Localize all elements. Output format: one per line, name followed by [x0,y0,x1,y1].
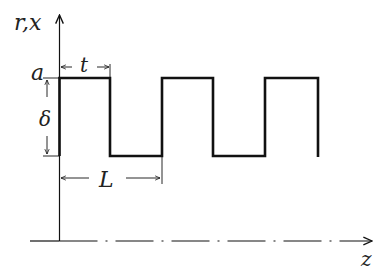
square-wave [60,78,319,157]
dimension-extension-lines [43,64,162,184]
t-dimension: t [61,53,109,77]
l-dimension: L [61,167,160,192]
t-label: t [80,53,89,77]
y-axis-label: r,x [14,10,42,35]
delta-label: δ [39,107,51,131]
z-axis-label: z [360,247,372,271]
l-label: L [98,167,114,192]
square-wave-diagram: t δ L r,x a z [0,0,386,276]
a-label: a [31,60,44,85]
delta-dimension: δ [39,80,51,154]
